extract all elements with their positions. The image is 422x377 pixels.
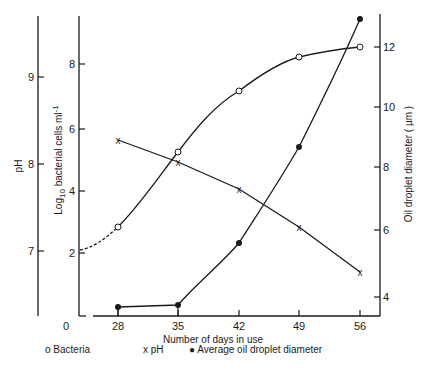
- legend-bacteria: o Bacteria: [45, 344, 90, 355]
- ph-point: x: [237, 184, 242, 195]
- oil-axis-title: Oil droplet diameter ( µm ): [403, 106, 414, 222]
- ph-point: x: [297, 222, 302, 233]
- oil-point: [236, 240, 242, 246]
- oil-point: [175, 302, 181, 308]
- x-tick-0: 0: [63, 320, 69, 332]
- ph-tick-7: 7: [28, 245, 34, 257]
- bacteria-axis-title: Log10 bacterial cells ml-1: [51, 105, 67, 215]
- ph-point: x: [358, 267, 363, 278]
- oil-axis: 12 10 8 6 4 Oil droplet diameter ( µm ): [374, 14, 414, 316]
- bacteria-axis: 8 6 4 2 Log10 bacterial cells ml-1: [51, 16, 85, 316]
- ph-axis: 9 8 7 pH: [13, 16, 44, 316]
- oil-tick-12: 12: [383, 41, 395, 53]
- bacteria-tick-2: 2: [69, 247, 75, 259]
- x-tick-28: 28: [112, 320, 124, 332]
- bacteria-point: [357, 44, 363, 50]
- x-tick-35: 35: [172, 320, 184, 332]
- x-axis: 0 28 35 42 49 56 Number of days in use: [63, 310, 380, 345]
- oil-tick-10: 10: [383, 101, 395, 113]
- oil-point: [115, 304, 121, 310]
- oil-tick-6: 6: [383, 224, 389, 236]
- ph-tick-9: 9: [28, 71, 34, 83]
- bacteria-point: [236, 88, 242, 94]
- ph-tick-8: 8: [28, 158, 34, 170]
- series-oil-droplet: [115, 16, 363, 316]
- bacteria-point: [175, 149, 181, 155]
- legend-ph: x pH: [143, 344, 164, 355]
- oil-point: [296, 144, 302, 150]
- oil-point: [357, 16, 363, 22]
- bacteria-tick-4: 4: [69, 185, 75, 197]
- bacteria-point: [115, 224, 121, 230]
- bacteria-point: [296, 54, 302, 60]
- x-tick-56: 56: [354, 320, 366, 332]
- ph-point: x: [116, 135, 121, 146]
- bacteria-tick-8: 8: [69, 58, 75, 70]
- x-tick-49: 49: [293, 320, 305, 332]
- bacteria-tick-6: 6: [69, 123, 75, 135]
- ph-point: x: [176, 157, 181, 168]
- oil-tick-8: 8: [383, 161, 389, 173]
- series-ph: x x x x x: [116, 135, 363, 278]
- series-bacteria: [80, 44, 363, 250]
- chart: 9 8 7 pH 8 6 4 2 Log10 bacterial cells m…: [0, 0, 422, 377]
- oil-tick-4: 4: [383, 291, 389, 303]
- legend-oil-droplet: ● Average oil droplet diameter: [189, 344, 322, 355]
- x-tick-42: 42: [233, 320, 245, 332]
- ph-axis-title: pH: [13, 160, 24, 173]
